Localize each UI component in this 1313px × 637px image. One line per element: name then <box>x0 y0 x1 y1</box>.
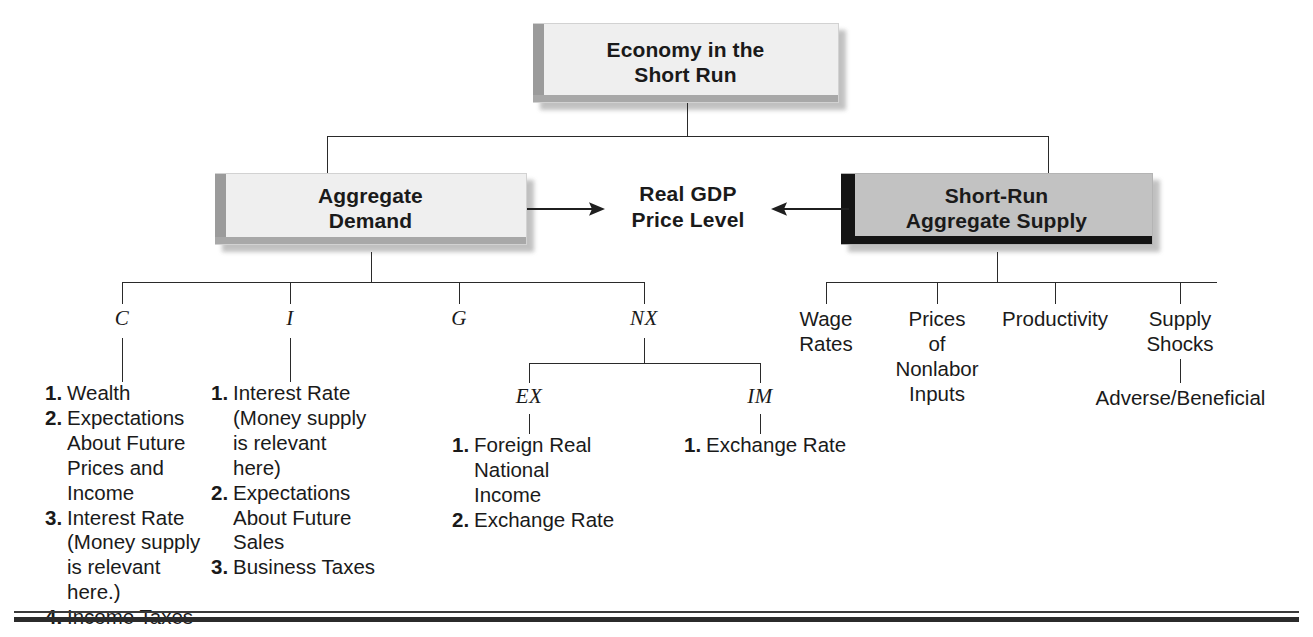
productivity-line1: Productivity <box>989 306 1121 331</box>
connector-drop-ex <box>529 363 530 383</box>
connector-drop-supply <box>1048 136 1049 174</box>
i-factor-num-3: 3. <box>211 555 233 580</box>
connector-drop-prices-nonlabor <box>937 282 938 304</box>
supply-box-bottom-edge <box>841 236 1152 244</box>
connector-supply-stem <box>997 252 998 282</box>
footer-rule-thin <box>14 611 1299 613</box>
prices-nonlabor-line4: Inputs <box>877 381 997 406</box>
nx-child-label-im: IM <box>730 384 790 409</box>
demand-box-bottom-edge <box>215 237 526 244</box>
ex-factor-num-1: 1. <box>452 433 474 458</box>
wage-rates-line1: Wage <box>771 306 881 331</box>
i-factor-num-1: 1. <box>211 381 233 406</box>
prices-nonlabor-line2: of <box>877 331 997 356</box>
i-factor-list: 1. Interest Rate (Money supply is releva… <box>211 381 377 580</box>
wage-rates-line2: Rates <box>771 331 881 356</box>
arrow-supply-to-outcome <box>771 199 849 219</box>
supply-factor-prices-of-nonlabor-inputs: Prices of Nonlabor Inputs <box>877 306 997 406</box>
nx-child-label-ex: EX <box>499 384 559 409</box>
c-factor-text-2: Expectations About Future Prices and Inc… <box>67 406 205 506</box>
ex-factor-list: 1. Foreign Real National Income 2. Excha… <box>452 433 618 533</box>
root-box-line2: Short Run <box>607 63 765 88</box>
list-item: 1. Wealth <box>45 381 205 406</box>
prices-nonlabor-line1: Prices <box>877 306 997 331</box>
demand-box-left-edge <box>215 174 226 244</box>
connector-drop-wage-rates <box>826 282 827 304</box>
i-factor-text-2: Expectations About Future Sales <box>233 481 377 556</box>
component-label-i: I <box>260 306 320 331</box>
list-item: 3. Business Taxes <box>211 555 377 580</box>
c-factor-list: 1. Wealth 2. Expectations About Future P… <box>45 381 205 630</box>
im-factor-text-1: Exchange Rate <box>706 433 874 458</box>
ex-factor-text-1: Foreign Real National Income <box>474 433 618 508</box>
list-item: 2. Expectations About Future Sales <box>211 481 377 556</box>
connector-drop-c <box>122 282 123 304</box>
c-factor-num-2: 2. <box>45 406 67 431</box>
c-factor-text-1: Wealth <box>67 381 205 406</box>
list-item: 1. Exchange Rate <box>684 433 874 458</box>
supply-box-line1: Short-Run <box>906 184 1087 209</box>
connector-nx-bus <box>529 363 760 364</box>
connector-i-to-list <box>290 338 291 382</box>
supply-factor-productivity: Productivity <box>989 306 1121 331</box>
im-factor-num-1: 1. <box>684 433 706 458</box>
connector-demand-bus <box>122 282 644 283</box>
component-label-g: G <box>429 306 489 331</box>
connector-ex-to-list <box>529 414 530 434</box>
center-outcome-line2: Price Level <box>608 207 768 233</box>
supply-shocks-line1: Supply <box>1124 306 1236 331</box>
ex-factor-num-2: 2. <box>452 508 474 533</box>
list-item: 1. Foreign Real National Income <box>452 433 618 508</box>
ex-factor-text-2: Exchange Rate <box>474 508 618 533</box>
list-item: 2. Exchange Rate <box>452 508 618 533</box>
i-factor-text-1: Interest Rate (Money supply is relevant … <box>233 381 377 481</box>
box-aggregate-demand: Aggregate Demand <box>215 173 527 245</box>
c-factor-text-3: Interest Rate (Money supply is relevant … <box>67 506 205 606</box>
connector-drop-i <box>290 282 291 304</box>
c-factor-num-1: 1. <box>45 381 67 406</box>
supply-factor-supply-shocks: Supply Shocks <box>1124 306 1236 356</box>
demand-box-line2: Demand <box>318 209 423 234</box>
connector-root-stem <box>687 103 688 136</box>
connector-supply-shocks-to-sub <box>1180 359 1181 383</box>
supply-factor-wage-rates: Wage Rates <box>771 306 881 356</box>
arrow-demand-to-outcome <box>527 199 605 219</box>
box-short-run-aggregate-supply: Short-Run Aggregate Supply <box>841 173 1153 245</box>
supply-shocks-line2: Shocks <box>1124 331 1236 356</box>
footer-rule-thick <box>14 617 1299 622</box>
supply-box-line2: Aggregate Supply <box>906 209 1087 234</box>
component-label-c: C <box>92 306 152 331</box>
connector-im-to-list <box>760 414 761 434</box>
diagram-canvas: Economy in the Short Run Aggregate Deman… <box>0 0 1313 637</box>
list-item: 1. Interest Rate (Money supply is releva… <box>211 381 377 481</box>
i-factor-text-3: Business Taxes <box>233 555 377 580</box>
i-factor-num-2: 2. <box>211 481 233 506</box>
supply-shock-type-label: Adverse/Beneficial <box>1073 385 1288 410</box>
connector-supply-bus <box>826 282 1217 283</box>
connector-nx-stem <box>644 338 645 363</box>
prices-nonlabor-line3: Nonlabor <box>877 356 997 381</box>
connector-drop-nx <box>644 282 645 304</box>
component-label-nx: NX <box>612 306 676 331</box>
connector-demand-stem <box>371 252 372 282</box>
root-box-line1: Economy in the <box>607 38 765 63</box>
center-outcome-line1: Real GDP <box>608 181 768 207</box>
root-box-bottom-edge <box>533 95 838 102</box>
im-factor-list: 1. Exchange Rate <box>684 433 874 458</box>
c-factor-num-3: 3. <box>45 506 67 531</box>
root-box-economy-short-run: Economy in the Short Run <box>533 23 839 103</box>
connector-c-to-list <box>122 338 123 382</box>
connector-drop-im <box>760 363 761 383</box>
connector-drop-demand <box>327 136 328 174</box>
connector-root-bus <box>327 136 1048 137</box>
list-item: 2. Expectations About Future Prices and … <box>45 406 205 506</box>
connector-drop-productivity <box>1055 282 1056 304</box>
center-outcome-label: Real GDP Price Level <box>608 181 768 232</box>
connector-drop-supply-shocks <box>1180 282 1181 304</box>
root-box-left-edge <box>533 24 544 102</box>
connector-drop-g <box>459 282 460 304</box>
list-item: 3. Interest Rate (Money supply is releva… <box>45 506 205 606</box>
demand-box-line1: Aggregate <box>318 184 423 209</box>
